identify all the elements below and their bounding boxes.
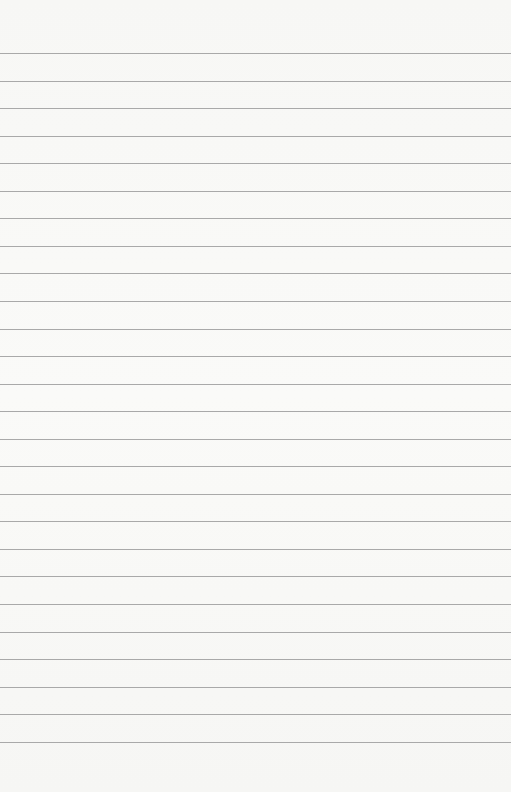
ruled-line (0, 714, 511, 715)
ruled-line (0, 439, 511, 440)
ruled-line (0, 53, 511, 54)
ruled-line (0, 521, 511, 522)
ruled-line (0, 466, 511, 467)
ruled-line (0, 81, 511, 82)
ruled-line (0, 218, 511, 219)
ruled-line (0, 329, 511, 330)
ruled-line (0, 576, 511, 577)
ruled-line (0, 301, 511, 302)
ruled-line (0, 356, 511, 357)
ruled-line (0, 687, 511, 688)
lined-paper (0, 0, 511, 792)
ruled-line (0, 136, 511, 137)
ruled-line (0, 604, 511, 605)
ruled-line (0, 163, 511, 164)
ruled-line (0, 191, 511, 192)
ruled-line (0, 659, 511, 660)
ruled-line (0, 273, 511, 274)
ruled-line (0, 742, 511, 743)
ruled-line (0, 108, 511, 109)
ruled-line (0, 549, 511, 550)
ruled-line (0, 411, 511, 412)
ruled-line (0, 632, 511, 633)
ruled-line (0, 246, 511, 247)
ruled-line (0, 494, 511, 495)
ruled-line (0, 384, 511, 385)
